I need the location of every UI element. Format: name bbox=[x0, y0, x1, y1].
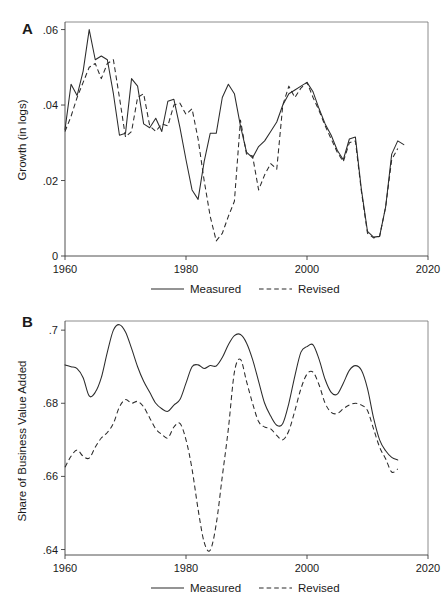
legend-measured-label: Measured bbox=[190, 283, 241, 295]
panel-b-share: B Share of Business Value Added .64.66.6… bbox=[0, 301, 444, 602]
panel-b-series-revised bbox=[65, 359, 398, 551]
panel-b-series-measured bbox=[65, 325, 398, 460]
y-tick-label: .06 bbox=[43, 24, 58, 36]
y-tick-label: .64 bbox=[43, 544, 58, 556]
y-tick-label: .68 bbox=[43, 397, 58, 409]
panel-b-plot-frame bbox=[65, 321, 428, 555]
panel-a-series-revised bbox=[65, 60, 398, 241]
panel-b-svg: B Share of Business Value Added .64.66.6… bbox=[0, 301, 444, 602]
x-tick-label: 1980 bbox=[174, 562, 198, 574]
y-tick-label: 0 bbox=[52, 250, 58, 262]
y-tick-label: .66 bbox=[43, 470, 58, 482]
x-tick-label: 1960 bbox=[53, 263, 77, 275]
panel-a-plot-frame bbox=[65, 22, 428, 256]
panel-b-legend: Measured Revised bbox=[151, 582, 340, 594]
x-tick-label: 2000 bbox=[295, 562, 319, 574]
panel-a-svg: A Growth (in logs) 0.02.04.06 1960198020… bbox=[0, 0, 444, 301]
figure-container: A Growth (in logs) 0.02.04.06 1960198020… bbox=[0, 0, 444, 602]
panel-b-y-axis-title: Share of Business Value Added bbox=[16, 361, 28, 522]
x-tick-label: 2020 bbox=[416, 562, 440, 574]
x-tick-label: 2020 bbox=[416, 263, 440, 275]
panel-a-y-axis-title: Growth (in logs) bbox=[16, 99, 28, 180]
legend-measured-label: Measured bbox=[190, 582, 241, 594]
panel-a-legend: Measured Revised bbox=[151, 283, 340, 295]
y-tick-label: .04 bbox=[43, 99, 58, 111]
panel-a-y-ticks: 0.02.04.06 bbox=[43, 24, 65, 262]
panel-a-series-measured bbox=[65, 30, 404, 238]
x-tick-label: 1980 bbox=[174, 263, 198, 275]
panel-a-letter: A bbox=[22, 20, 33, 37]
panel-a-growth: A Growth (in logs) 0.02.04.06 1960198020… bbox=[0, 0, 444, 301]
panel-a-x-ticks: 1960198020002020 bbox=[53, 256, 440, 275]
panel-b-letter: B bbox=[22, 313, 33, 330]
x-tick-label: 1960 bbox=[53, 562, 77, 574]
panel-b-y-ticks: .64.66.68.7 bbox=[43, 324, 65, 555]
legend-revised-label: Revised bbox=[298, 582, 340, 594]
panel-b-x-ticks: 1960198020002020 bbox=[53, 555, 440, 574]
y-tick-label: .7 bbox=[49, 324, 58, 336]
y-tick-label: .02 bbox=[43, 175, 58, 187]
x-tick-label: 2000 bbox=[295, 263, 319, 275]
legend-revised-label: Revised bbox=[298, 283, 340, 295]
